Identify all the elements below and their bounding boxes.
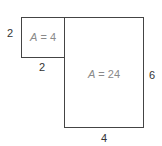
large-rectangle-height-label: 6 <box>149 69 155 81</box>
area-value: = 24 <box>95 68 120 80</box>
area-variable: A <box>29 31 37 43</box>
large-rectangle-area-label: A = 24 <box>87 68 120 80</box>
small-square-area-label: A = 4 <box>29 31 56 43</box>
small-square-width-label: 2 <box>39 61 45 73</box>
large-rectangle-width-label: 4 <box>101 132 107 144</box>
area-variable: A <box>87 68 95 80</box>
area-value: = 4 <box>37 31 56 43</box>
small-square-height-label: 2 <box>7 27 13 39</box>
area-diagram: 2 A = 4 2 A = 24 6 4 <box>0 0 162 146</box>
